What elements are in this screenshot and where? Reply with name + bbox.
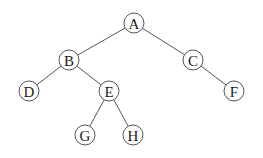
tree-node-c: C [183, 50, 203, 70]
tree-node-h: H [123, 125, 143, 145]
edge-b-e [77, 66, 101, 85]
binary-tree-diagram: ABCDEFGH [0, 0, 263, 158]
node-label: D [24, 84, 35, 100]
tree-node-a: A [124, 13, 144, 33]
node-label: E [104, 84, 113, 100]
node-label: F [230, 84, 238, 100]
edge-c-f [201, 66, 226, 85]
node-label: C [188, 53, 198, 69]
tree-node-e: E [99, 81, 119, 101]
edge-e-h [114, 100, 128, 126]
edge-a-b [78, 28, 126, 55]
edge-a-c [142, 28, 184, 54]
tree-nodes: ABCDEFGH [19, 13, 244, 145]
node-label: G [80, 128, 91, 144]
node-label: A [129, 16, 140, 32]
edge-e-g [90, 100, 104, 126]
tree-node-g: G [75, 125, 95, 145]
tree-edges [37, 28, 226, 126]
edge-b-d [37, 66, 61, 85]
tree-node-b: B [59, 50, 79, 70]
node-label: B [64, 53, 74, 69]
tree-node-f: F [224, 81, 244, 101]
tree-node-d: D [19, 81, 39, 101]
node-label: H [128, 128, 139, 144]
